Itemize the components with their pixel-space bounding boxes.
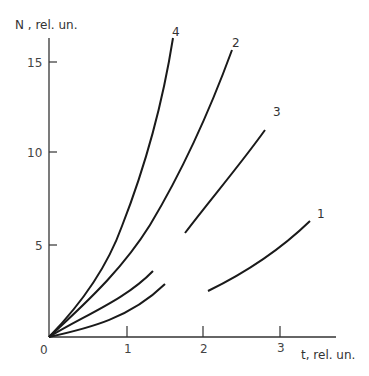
chart: 15 10 5 0 1 2 3 N , rel. un. t, rel. un.… xyxy=(0,0,369,376)
curve-label-2: 2 xyxy=(232,36,240,50)
curve-label-3: 3 xyxy=(273,105,281,119)
y-axis-label: N , rel. un. xyxy=(15,18,77,32)
y-tick-label-10: 10 xyxy=(27,146,42,160)
y-tick-label-5: 5 xyxy=(35,239,43,253)
curve-1-segment-lower xyxy=(49,284,165,337)
curve-label-4: 4 xyxy=(172,25,180,39)
x-axis-label: t, rel. un. xyxy=(301,348,355,362)
curve-1-segment-upper xyxy=(208,221,310,291)
curve-3-segment-lower xyxy=(49,271,153,337)
x-tick-label-3: 3 xyxy=(277,341,285,355)
x-tick-label-1: 1 xyxy=(124,342,132,356)
origin-label: 0 xyxy=(40,343,48,357)
curve-label-1: 1 xyxy=(317,207,325,221)
curve-3-segment-upper xyxy=(185,130,265,233)
x-tick-label-2: 2 xyxy=(200,342,208,356)
curve-2 xyxy=(49,50,232,337)
y-tick-label-15: 15 xyxy=(27,56,42,70)
